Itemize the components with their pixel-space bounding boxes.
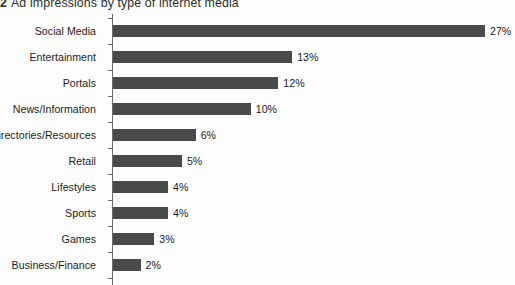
bar-row: Entertainment13% [0,44,515,70]
bar-row: Business/Finance2% [0,252,515,278]
bar-value-label: 6% [201,122,216,148]
plot-area: Social Media27%Entertainment13%Portals12… [0,14,515,285]
chart-title: 2Ad impressions by type of internet medi… [0,0,515,11]
category-label: Games [62,226,96,252]
bar-value-label: 4% [173,174,188,200]
bar-row: Social Media27% [0,18,515,44]
bar [113,181,168,193]
bar-row: Directories/Resources6% [0,122,515,148]
bar-value-label: 3% [159,226,174,252]
bar-value-label: 12% [283,70,304,96]
bar [113,207,168,219]
bar-value-label: 4% [173,200,188,226]
category-label: News/Information [13,96,96,122]
bar [113,259,141,271]
category-label: Portals [63,70,96,96]
bar-value-label: 13% [297,44,318,70]
bar [113,155,182,167]
bar-row: Sports4% [0,200,515,226]
bar [113,233,154,245]
category-label: Social Media [35,18,96,44]
bar-row: Games3% [0,226,515,252]
bar [113,51,292,63]
bar-value-label: 5% [187,148,202,174]
bar-value-label: 2% [146,252,161,278]
figure-number: 2 [0,0,7,10]
bar [113,103,251,115]
category-label: Business/Finance [12,252,96,278]
chart-figure: 2Ad impressions by type of internet medi… [0,0,515,285]
category-label: Sports [65,200,96,226]
bar-row: News/Information10% [0,96,515,122]
bar [113,129,196,141]
category-label: Retail [69,148,96,174]
bar [113,77,278,89]
category-label: Entertainment [29,44,96,70]
bar-value-label: 10% [256,96,277,122]
category-label: Directories/Resources [0,122,96,148]
bar-row: Lifestyles4% [0,174,515,200]
bar [113,25,485,37]
bar-row: Retail5% [0,148,515,174]
bar-value-label: 27% [490,18,511,44]
chart-title-text: Ad impressions by type of internet media [11,0,239,10]
bar-row: Portals12% [0,70,515,96]
category-label: Lifestyles [51,174,96,200]
